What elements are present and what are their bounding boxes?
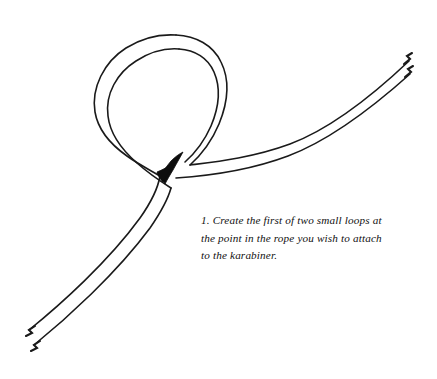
caption-line-1: 1. Create the first of two small loops a…	[201, 212, 391, 230]
rope-inline-loop-top-right	[179, 49, 218, 162]
rope-outline-loop-left-up	[94, 35, 176, 176]
caption-line-3: to the karabiner.	[201, 247, 391, 265]
rope-end-lower-inner	[31, 341, 40, 351]
rope-inline-lower-left-to-loop	[34, 188, 171, 345]
rope-inner-edge	[34, 49, 410, 345]
rope-end-lower-outer	[26, 326, 35, 336]
caption-text: 1. Create the first of two small loops a…	[201, 212, 391, 265]
rope-outline-lower-left-to-loop	[29, 176, 160, 330]
rope-diagram	[0, 0, 437, 379]
illustration-page: 1. Create the first of two small loops a…	[0, 0, 437, 379]
rope-outer-edge	[29, 35, 409, 330]
caption-line-2: the point in the rope you wish to attach	[201, 230, 391, 248]
rope-outline-loop-top-right	[176, 35, 227, 165]
